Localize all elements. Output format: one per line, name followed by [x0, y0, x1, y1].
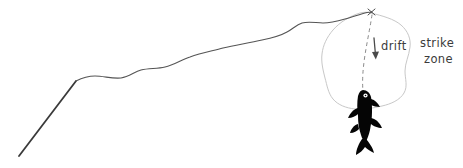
- strike-label: strike: [420, 36, 454, 50]
- drift-dashed-path: [363, 15, 372, 92]
- fish-silhouette: [348, 90, 382, 155]
- fishing-diagram-svg: drift strike zone: [0, 0, 463, 168]
- fishing-rod: [19, 81, 76, 156]
- fishing-line: [76, 12, 372, 81]
- diagram-canvas: drift strike zone: [0, 0, 463, 168]
- zone-label: zone: [424, 52, 453, 66]
- drift-arrow: [372, 38, 379, 60]
- drift-label: drift: [381, 39, 407, 53]
